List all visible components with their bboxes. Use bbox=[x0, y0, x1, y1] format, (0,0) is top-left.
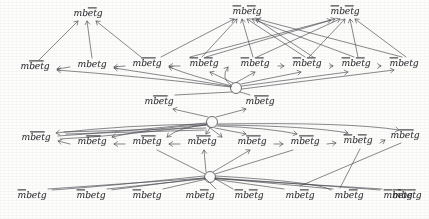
graph-edge bbox=[175, 92, 232, 95]
graph-node-label[interactable]: mbetg bbox=[246, 97, 275, 106]
graph-node-label[interactable]: mbetg bbox=[190, 59, 219, 68]
graph-hub-node[interactable] bbox=[205, 172, 216, 183]
graph-node-label[interactable]: mbetg bbox=[21, 62, 50, 71]
graph-node-label[interactable]: mbetg bbox=[233, 7, 262, 16]
graph-node-label[interactable]: mbetg bbox=[133, 137, 162, 146]
graph-node-label[interactable]: mbetg bbox=[291, 137, 320, 146]
graph-edge bbox=[39, 21, 78, 60]
graph-node-label[interactable]: mbetg bbox=[235, 191, 264, 200]
graph-node-label[interactable]: mbetg bbox=[77, 191, 106, 200]
graph-edge bbox=[206, 19, 335, 57]
graph-edge bbox=[340, 149, 360, 188]
graph-edge bbox=[87, 21, 92, 58]
graph-edge bbox=[190, 20, 331, 57]
graph-node-label[interactable]: mbetg bbox=[331, 7, 360, 16]
graph-edge bbox=[216, 176, 331, 190]
graph-edge bbox=[216, 109, 246, 117]
graph-edge bbox=[216, 178, 380, 190]
graph-node-label[interactable]: mbetg bbox=[342, 59, 371, 68]
graph-edge bbox=[169, 67, 231, 86]
graph-node-label[interactable]: mbetg bbox=[393, 191, 422, 200]
graph-node-label[interactable]: mbetg bbox=[241, 59, 270, 68]
graph-edge bbox=[237, 72, 255, 82]
graph-node-label[interactable]: mbetg bbox=[22, 133, 51, 142]
graph-node-label[interactable]: mbetg bbox=[344, 136, 373, 145]
graph-edge bbox=[217, 126, 297, 134]
graph-node-label[interactable]: mbetg bbox=[78, 137, 107, 146]
graph-node-label[interactable]: mbetg bbox=[74, 9, 103, 18]
graph-edge bbox=[215, 128, 246, 134]
graph-edge bbox=[215, 179, 233, 189]
graph-edge bbox=[58, 123, 206, 136]
graph-edge bbox=[215, 150, 293, 174]
diagram-edges-layer bbox=[0, 0, 429, 219]
graph-node-label[interactable]: mbetg bbox=[390, 59, 419, 68]
graph-edge bbox=[300, 143, 401, 186]
graph-node-label[interactable]: mbetg bbox=[335, 191, 364, 200]
graph-edge bbox=[161, 19, 234, 57]
graph-node-label[interactable]: mbetg bbox=[286, 191, 315, 200]
graph-edge bbox=[218, 125, 348, 133]
graph-node-label[interactable]: mbetg bbox=[78, 60, 107, 69]
graph-edge bbox=[204, 150, 206, 172]
graph-edge bbox=[350, 19, 358, 57]
graph-edge bbox=[242, 72, 348, 86]
graph-edge bbox=[218, 124, 399, 130]
graph-node-label[interactable]: mbetg bbox=[186, 191, 215, 200]
graph-edge bbox=[247, 19, 305, 57]
graph-edge bbox=[96, 21, 141, 57]
graph-node-label[interactable]: mbetg bbox=[18, 191, 47, 200]
graph-node-label[interactable]: mbetg bbox=[145, 97, 174, 106]
graph-node-label[interactable]: mbetg bbox=[133, 191, 162, 200]
graph-edge bbox=[256, 19, 313, 57]
graph-node-label[interactable]: mbetg bbox=[391, 131, 420, 140]
graph-edge bbox=[202, 19, 237, 57]
graph-edge bbox=[114, 66, 125, 67]
graph-node-label[interactable]: mbetg bbox=[293, 59, 322, 68]
graph-edge bbox=[173, 109, 208, 117]
graph-node-label[interactable]: mbetg bbox=[238, 137, 267, 146]
graph-edge bbox=[252, 19, 354, 57]
graph-edge bbox=[240, 92, 250, 95]
graph-edge bbox=[242, 19, 253, 57]
graph-edge bbox=[157, 150, 205, 174]
graph-edge bbox=[114, 68, 231, 86]
graph-node-label[interactable]: mbetg bbox=[133, 59, 162, 68]
graph-hub-node[interactable] bbox=[207, 117, 218, 128]
graph-edge bbox=[58, 141, 70, 144]
diagram-canvas: mbetgmbetgmbetgmbetgmbetgmbetgmbetgmbetg… bbox=[0, 0, 429, 219]
graph-node-label[interactable]: mbetg bbox=[188, 137, 217, 146]
